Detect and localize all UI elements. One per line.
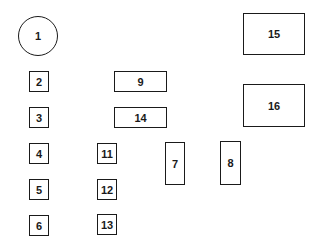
component-label: 3 [36,112,42,124]
component-label: 7 [172,158,178,170]
component-label: 12 [101,184,113,196]
component-2-box: 2 [29,71,49,92]
component-3-box: 3 [29,107,49,128]
component-16-box: 16 [243,84,305,127]
component-7-box: 7 [165,142,185,185]
component-15-box: 15 [243,13,305,55]
component-1-circle: 1 [18,16,58,56]
component-label: 1 [35,30,41,42]
component-label: 16 [268,100,280,112]
component-label: 15 [268,28,280,40]
component-label: 11 [101,148,113,160]
component-label: 14 [134,112,146,124]
component-label: 8 [227,157,233,169]
component-label: 4 [36,148,42,160]
component-label: 5 [36,184,42,196]
component-5-box: 5 [29,179,49,200]
component-label: 6 [36,220,42,232]
component-label: 2 [36,76,42,88]
component-12-box: 12 [97,179,117,200]
component-13-box: 13 [97,214,117,235]
component-label: 13 [101,219,113,231]
component-9-box: 9 [114,71,167,92]
component-6-box: 6 [29,215,49,236]
component-14-box: 14 [114,107,167,128]
component-label: 9 [137,76,143,88]
component-11-box: 11 [97,143,117,164]
component-4-box: 4 [29,143,49,164]
component-8-box: 8 [220,141,241,185]
